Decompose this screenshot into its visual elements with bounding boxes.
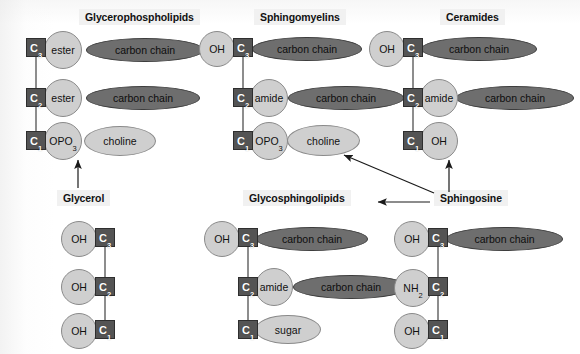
gsl-tail-carbonchain-c3-label: carbon chain [282, 233, 342, 245]
gly-left-oh-c3: OH [61, 221, 97, 257]
gsl-carbon-c3-label: C3 [242, 232, 254, 244]
gsl-tail-carbonchain-c3: carbon chain [256, 227, 368, 251]
cer-tail-carbonchain-c3: carbon chain [421, 37, 537, 61]
sph-carbon-c3: C3 [428, 228, 448, 247]
arrow-sphingosine-to-sphingomyelins [344, 155, 434, 193]
sm-carbon-c2: C2 [233, 88, 253, 107]
gpl-carbon-c1: C1 [26, 131, 46, 150]
sm-tail-carbonchain-c3: carbon chain [252, 37, 362, 61]
sph-carbon-c1: C1 [428, 320, 448, 339]
sph-tail-carbonchain-c3-label: carbon chain [474, 233, 534, 245]
sm-carbon-c1: C1 [233, 131, 253, 150]
cer-substituent-oh-c1-label: OH [431, 135, 447, 147]
gly-carbon-c2: C2 [95, 277, 115, 296]
gpl-tail-choline-c1-label: choline [103, 135, 136, 147]
sph-left-oh-c3-label: OH [404, 233, 420, 245]
sm-carbon-c3-label: C3 [237, 42, 249, 54]
gsl-carbon-c1-label: C1 [242, 324, 254, 336]
panel-title-glycerol: Glycerol [57, 190, 110, 206]
panel-title-glycerophospholipids: Glycerophospholipids [79, 9, 200, 25]
sph-left-nh2-c2-label: NH2 [403, 282, 422, 294]
gsl-tail-carbonchain-c2-label: carbon chain [321, 281, 381, 293]
sm-left-oh-c3: OH [199, 31, 235, 67]
gly-carbon-c1: C1 [95, 320, 115, 339]
cer-carbon-c2-label: C2 [407, 92, 419, 104]
gpl-substituent-ester-c2: ester [44, 79, 82, 117]
gsl-substituent-amide-c2: amide [255, 268, 293, 306]
gly-carbon-c3: C3 [95, 228, 115, 247]
gpl-substituent-ester-c2-label: ester [51, 92, 74, 104]
cer-left-oh-c3-label: OH [379, 43, 395, 55]
diagram-canvas: Glycerophospholipids C3 ester carbon cha… [0, 0, 580, 354]
cer-carbon-c3: C3 [403, 38, 423, 57]
gly-left-oh-c1-label: OH [71, 325, 87, 337]
gsl-carbon-c1: C1 [238, 320, 258, 339]
sph-carbon-c2-label: C2 [432, 281, 444, 293]
gpl-carbon-c1-label: C1 [30, 135, 42, 147]
gly-carbon-c3-label: C3 [99, 232, 111, 244]
sph-tail-carbonchain-c3: carbon chain [446, 227, 563, 251]
gpl-tail-carbonchain-c2-label: carbon chain [113, 92, 173, 104]
gsl-left-oh-c3-label: OH [214, 233, 230, 245]
sm-substituent-amide-c2: amide [250, 79, 288, 117]
gpl-substituent-ester-c3: ester [44, 31, 82, 69]
gpl-substituent-opo3-c1-label: OPO3 [49, 135, 77, 147]
panel-title-ceramides: Ceramides [440, 9, 505, 25]
sm-tail-carbonchain-c2-label: carbon chain [316, 92, 376, 104]
gsl-carbon-c3: C3 [238, 228, 258, 247]
cer-substituent-amide-c2-label: amide [425, 92, 454, 104]
sph-left-nh2-c2: NH2 [394, 269, 432, 307]
gsl-tail-sugar-c1: sugar [255, 315, 321, 344]
gpl-substituent-ester-c3-label: ester [51, 44, 74, 56]
sm-carbon-c2-label: C2 [237, 92, 249, 104]
sm-left-oh-c3-label: OH [209, 43, 225, 55]
sph-carbon-c1-label: C1 [432, 324, 444, 336]
cer-tail-carbonchain-c2-label: carbon chain [485, 92, 545, 104]
sph-left-oh-c1-label: OH [404, 325, 420, 337]
sm-tail-choline-c1-label: choline [307, 135, 340, 147]
cer-carbon-c3-label: C3 [407, 42, 419, 54]
sm-carbon-c3: C3 [233, 38, 253, 57]
gpl-carbon-c2-label: C2 [30, 92, 42, 104]
panel-title-sphingosine: Sphingosine [434, 190, 508, 206]
gly-left-oh-c2-label: OH [71, 281, 87, 293]
cer-substituent-amide-c2: amide [420, 79, 458, 117]
sph-left-oh-c1: OH [394, 313, 430, 349]
sph-left-oh-c3: OH [394, 221, 430, 257]
sm-tail-choline-c1: choline [287, 125, 360, 156]
panel-title-glycosphingolipids: Glycosphingolipids [243, 190, 351, 206]
sm-tail-carbonchain-c2: carbon chain [288, 86, 404, 110]
cer-tail-carbonchain-c2: carbon chain [456, 86, 574, 110]
gpl-tail-carbonchain-c3: carbon chain [86, 38, 204, 62]
gly-left-oh-c3-label: OH [71, 233, 87, 245]
gpl-substituent-opo3-c1: OPO3 [44, 122, 82, 160]
cer-carbon-c1-label: C1 [407, 135, 419, 147]
sm-tail-carbonchain-c3-label: carbon chain [277, 43, 337, 55]
panel-title-sphingomyelins: Sphingomyelins [254, 9, 346, 25]
gly-carbon-c1-label: C1 [99, 324, 111, 336]
cer-left-oh-c3: OH [369, 31, 405, 67]
gly-carbon-c2-label: C2 [99, 281, 111, 293]
gsl-tail-carbonchain-c2: carbon chain [293, 275, 409, 299]
cer-carbon-c1: C1 [403, 131, 423, 150]
gpl-carbon-c2: C2 [26, 88, 46, 107]
gsl-carbon-c2-label: C2 [242, 281, 254, 293]
sm-carbon-c1-label: C1 [237, 135, 249, 147]
sph-carbon-c2: C2 [428, 277, 448, 296]
cer-tail-carbonchain-c3-label: carbon chain [449, 43, 509, 55]
gpl-carbon-c3-label: C3 [30, 42, 42, 54]
gpl-tail-choline-c1: choline [84, 126, 156, 156]
gpl-carbon-c3: C3 [26, 38, 46, 57]
gpl-tail-carbonchain-c2: carbon chain [86, 86, 200, 110]
gly-left-oh-c2: OH [61, 269, 97, 305]
gsl-substituent-amide-c2-label: amide [260, 281, 289, 293]
cer-substituent-oh-c1: OH [420, 122, 458, 160]
gpl-tail-carbonchain-c3-label: carbon chain [115, 44, 175, 56]
gly-left-oh-c1: OH [61, 313, 97, 349]
gsl-tail-sugar-c1-label: sugar [275, 324, 301, 336]
sm-substituent-amide-c2-label: amide [255, 92, 284, 104]
gsl-carbon-c2: C2 [238, 277, 258, 296]
sm-substituent-opo3-c1: OPO3 [250, 122, 288, 160]
sm-substituent-opo3-c1-label: OPO3 [255, 135, 283, 147]
sph-carbon-c3-label: C3 [432, 232, 444, 244]
